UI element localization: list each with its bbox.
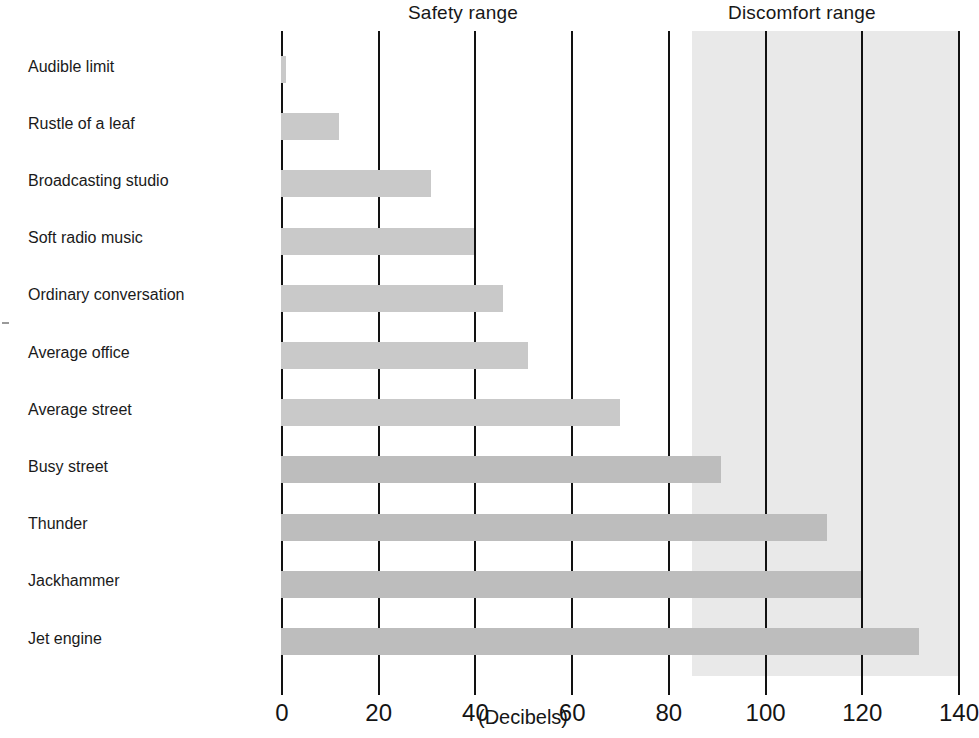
gridline-120 xyxy=(861,31,863,676)
category-label: Thunder xyxy=(28,515,88,533)
category-label: Broadcasting studio xyxy=(28,172,169,190)
x-axis-title: (Decibels) xyxy=(0,706,976,729)
category-label: Jet engine xyxy=(28,630,102,648)
bar xyxy=(281,113,339,140)
bar xyxy=(281,342,528,369)
category-label: Audible limit xyxy=(28,58,114,76)
discomfort-range-label: Discomfort range xyxy=(728,2,876,24)
bar xyxy=(281,514,827,541)
bar xyxy=(281,628,919,655)
bar xyxy=(281,56,286,83)
tick-80 xyxy=(668,676,670,695)
bar xyxy=(281,228,474,255)
tick-140 xyxy=(958,676,960,695)
scan-speck xyxy=(2,322,9,324)
tick-120 xyxy=(861,676,863,695)
bar xyxy=(281,571,861,598)
category-label: Busy street xyxy=(28,458,108,476)
bar xyxy=(281,399,620,426)
safety-range-label: Safety range xyxy=(408,2,518,24)
tick-0 xyxy=(281,676,283,695)
x-axis-title-text: (Decibels) xyxy=(478,706,568,728)
category-label: Ordinary conversation xyxy=(28,286,185,304)
bar xyxy=(281,170,431,197)
gridline-140 xyxy=(958,31,960,676)
category-label: Average office xyxy=(28,344,130,362)
tick-100 xyxy=(765,676,767,695)
tick-60 xyxy=(571,676,573,695)
category-label: Average street xyxy=(28,401,132,419)
tick-20 xyxy=(378,676,380,695)
category-label: Rustle of a leaf xyxy=(28,115,135,133)
category-axis: Audible limitRustle of a leafBroadcastin… xyxy=(0,31,250,676)
bar xyxy=(281,285,503,312)
category-label: Jackhammer xyxy=(28,572,120,590)
bar xyxy=(281,456,721,483)
tick-40 xyxy=(474,676,476,695)
category-label: Soft radio music xyxy=(28,229,143,247)
plot-area: 020406080100120140 xyxy=(281,31,958,676)
